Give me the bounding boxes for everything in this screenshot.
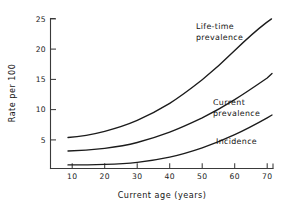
- x-tick-label-40: 40: [165, 172, 175, 181]
- series-label-incidence-line1: Incidence: [216, 137, 257, 146]
- series-label-lifetime-line1: Life-time: [196, 22, 234, 31]
- y-axis-title: Rate per 100: [7, 64, 17, 123]
- series-label-current-line2: prevalence: [213, 109, 260, 118]
- y-tick-label-25: 25: [36, 15, 46, 24]
- y-tick-label-20: 20: [36, 45, 46, 54]
- x-tick-label-10: 10: [67, 172, 77, 181]
- series-annotation-current: Current prevalence: [213, 98, 260, 118]
- y-tick-label-5: 5: [41, 136, 46, 145]
- series-annotation-incidence: Incidence: [216, 137, 257, 146]
- line-chart: 25 20 15 10 5 10 20 30 40 50 60 70 Cur: [0, 0, 287, 211]
- x-tick-label-30: 30: [132, 172, 142, 181]
- series-label-current-line1: Current: [213, 98, 245, 107]
- chart-figure: 25 20 15 10 5 10 20 30 40 50 60 70 Cur: [0, 0, 287, 211]
- y-tick-marks: [51, 19, 57, 140]
- y-tick-labels: 25 20 15 10 5: [36, 15, 46, 145]
- x-tick-label-70: 70: [262, 172, 272, 181]
- series-label-lifetime-line2: prevalence: [196, 33, 243, 42]
- x-tick-label-50: 50: [197, 172, 207, 181]
- series-annotation-lifetime: Life-time prevalence: [196, 22, 243, 42]
- x-tick-labels: 10 20 30 40 50 60 70: [67, 172, 272, 181]
- x-tick-label-60: 60: [230, 172, 240, 181]
- x-tick-label-20: 20: [100, 172, 110, 181]
- y-tick-label-15: 15: [36, 75, 46, 84]
- x-axis-title: Current age (years): [118, 190, 207, 200]
- y-tick-label-10: 10: [36, 105, 46, 114]
